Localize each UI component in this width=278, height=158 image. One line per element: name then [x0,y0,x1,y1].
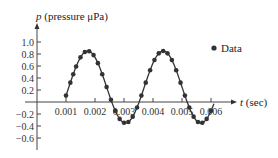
y-tick-label: 0.8 [22,49,35,60]
data-point [71,72,76,77]
legend: Data [211,42,241,54]
x-axis-label: t (sec) [240,96,268,109]
y-tick-label: 0.2 [22,85,35,96]
data-point [148,68,153,73]
data-point [130,114,135,119]
x-tick-label: 0.001 [55,106,78,117]
data-point [117,117,122,122]
data-point [187,105,192,110]
y-tick-label: 0.4 [22,73,35,84]
data-point [113,109,118,114]
y-tick-label: −0.2 [16,109,34,120]
data-point [109,97,114,102]
data-point [96,61,101,66]
legend-label: Data [221,42,242,54]
data-point [165,51,170,56]
data-point [68,80,73,85]
x-axis-arrow-icon [231,100,237,105]
y-tick-label: 0.6 [22,61,35,72]
y-axis-arrow-icon [35,23,40,29]
data-point [152,58,157,63]
pressure-chart: 1.00.80.60.40.2−0.2−0.4−0.6 0.0010.0020.… [0,0,278,158]
data-point [78,55,83,60]
x-tick-label: 0.004 [142,106,165,117]
data-point [209,109,214,114]
legend-marker-icon [211,45,216,50]
data-point [126,120,131,125]
data-point [87,49,92,54]
data-point [174,68,179,73]
data-point [83,50,88,55]
data-point [122,120,127,125]
data-point [64,93,69,98]
data-point [74,64,79,69]
y-tick-label: −0.4 [16,121,34,132]
data-point [178,80,183,85]
data-point [104,85,109,90]
data-point [135,105,140,110]
data-point [139,93,144,98]
data-point [196,120,201,125]
data-point [183,93,188,98]
data-point [91,53,96,58]
data-point [161,49,166,54]
data-point [157,51,162,56]
data-point [100,72,105,77]
y-axis-label: p (pressure μPa) [35,10,108,23]
data-point [143,80,148,85]
data-point [204,117,209,122]
data-point [200,120,205,125]
y-tick-label: −0.6 [16,133,34,144]
data-point [170,58,175,63]
x-tick-label: 0.002 [84,106,107,117]
y-tick-label: 1.0 [22,37,35,48]
data-point [191,114,196,119]
